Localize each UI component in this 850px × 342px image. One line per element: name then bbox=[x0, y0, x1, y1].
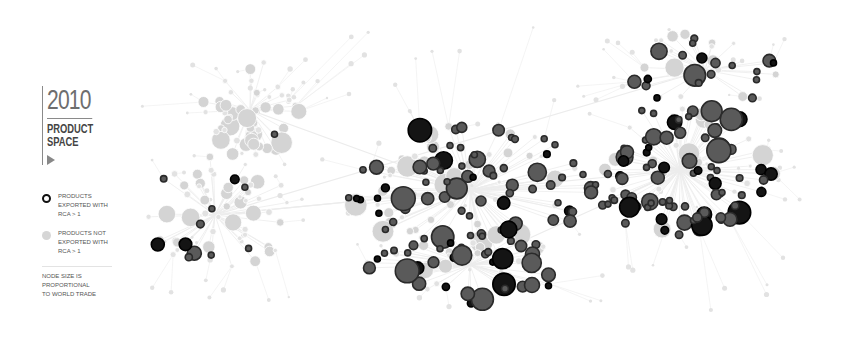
product-node-exported[interactable] bbox=[457, 122, 467, 132]
product-node-not-exported[interactable] bbox=[782, 37, 786, 41]
product-node-not-exported[interactable] bbox=[362, 52, 367, 57]
product-node-not-exported[interactable] bbox=[798, 197, 802, 201]
product-node-not-exported[interactable] bbox=[210, 228, 216, 234]
product-node-exported[interactable] bbox=[564, 215, 576, 227]
product-node-not-exported[interactable] bbox=[630, 268, 635, 273]
product-node-not-exported[interactable] bbox=[767, 139, 770, 142]
product-node-not-exported[interactable] bbox=[220, 99, 232, 111]
product-node-not-exported[interactable] bbox=[276, 219, 284, 227]
product-node-exported[interactable] bbox=[470, 174, 476, 180]
product-node-exported[interactable] bbox=[707, 71, 715, 79]
product-node-exported[interactable] bbox=[760, 176, 768, 184]
product-node-not-exported[interactable] bbox=[376, 141, 381, 146]
product-node-not-exported[interactable] bbox=[301, 218, 305, 222]
product-node-not-exported[interactable] bbox=[186, 112, 189, 115]
product-node-exported[interactable] bbox=[346, 195, 352, 201]
product-node-exported[interactable] bbox=[423, 179, 429, 185]
product-node-not-exported[interactable] bbox=[202, 210, 209, 217]
product-node-not-exported[interactable] bbox=[764, 292, 769, 297]
product-node-exported[interactable] bbox=[542, 268, 556, 282]
product-node-exported[interactable] bbox=[622, 220, 629, 227]
product-node-exported[interactable] bbox=[231, 175, 240, 184]
product-node-not-exported[interactable] bbox=[260, 102, 271, 113]
product-node-exported[interactable] bbox=[693, 213, 702, 222]
product-node-not-exported[interactable] bbox=[234, 137, 241, 144]
product-node-not-exported[interactable] bbox=[388, 173, 393, 178]
product-node-not-exported[interactable] bbox=[356, 243, 359, 246]
product-node-exported[interactable] bbox=[555, 200, 561, 206]
product-node-exported[interactable] bbox=[382, 184, 390, 192]
product-node-exported[interactable] bbox=[541, 136, 547, 142]
product-node-not-exported[interactable] bbox=[468, 268, 471, 271]
product-node-exported[interactable] bbox=[408, 119, 431, 142]
product-node-not-exported[interactable] bbox=[678, 94, 684, 100]
product-node-not-exported[interactable] bbox=[170, 252, 176, 258]
product-node-exported[interactable] bbox=[390, 219, 397, 226]
product-node-not-exported[interactable] bbox=[779, 149, 783, 153]
product-node-not-exported[interactable] bbox=[279, 93, 284, 98]
product-node-not-exported[interactable] bbox=[191, 236, 194, 239]
product-node-not-exported[interactable] bbox=[206, 153, 214, 161]
product-node-not-exported[interactable] bbox=[158, 205, 176, 223]
product-node-exported[interactable] bbox=[682, 154, 697, 169]
product-node-not-exported[interactable] bbox=[439, 259, 453, 273]
product-node-not-exported[interactable] bbox=[287, 66, 292, 71]
product-node-exported[interactable] bbox=[651, 43, 667, 59]
product-node-exported[interactable] bbox=[405, 250, 411, 256]
product-node-not-exported[interactable] bbox=[673, 142, 679, 148]
product-node-not-exported[interactable] bbox=[208, 167, 214, 173]
product-node-not-exported[interactable] bbox=[652, 264, 655, 267]
product-node-exported[interactable] bbox=[682, 203, 689, 210]
product-node-exported[interactable] bbox=[656, 214, 667, 225]
product-node-exported[interactable] bbox=[493, 249, 513, 269]
product-node-not-exported[interactable] bbox=[223, 78, 228, 83]
product-node-exported[interactable] bbox=[547, 181, 555, 189]
product-node-exported[interactable] bbox=[546, 283, 552, 289]
product-node-exported[interactable] bbox=[676, 117, 682, 123]
product-node-not-exported[interactable] bbox=[204, 278, 208, 282]
product-node-exported[interactable] bbox=[437, 246, 443, 252]
product-node-not-exported[interactable] bbox=[223, 182, 233, 192]
product-node-exported[interactable] bbox=[528, 163, 546, 181]
product-node-exported[interactable] bbox=[714, 168, 720, 174]
product-node-exported[interactable] bbox=[697, 53, 707, 63]
product-node-not-exported[interactable] bbox=[626, 264, 631, 269]
product-node-not-exported[interactable] bbox=[207, 296, 211, 300]
product-node-not-exported[interactable] bbox=[278, 193, 283, 198]
product-node-not-exported[interactable] bbox=[766, 283, 769, 286]
product-node-not-exported[interactable] bbox=[249, 78, 254, 83]
product-node-exported[interactable] bbox=[702, 134, 709, 141]
product-node-not-exported[interactable] bbox=[696, 206, 699, 209]
product-node-not-exported[interactable] bbox=[434, 281, 440, 287]
product-node-exported[interactable] bbox=[639, 108, 645, 114]
product-node-not-exported[interactable] bbox=[578, 233, 581, 236]
product-node-not-exported[interactable] bbox=[772, 43, 775, 46]
product-node-exported[interactable] bbox=[605, 201, 611, 207]
product-node-not-exported[interactable] bbox=[605, 39, 610, 44]
product-node-exported[interactable] bbox=[711, 58, 720, 67]
product-node-exported[interactable] bbox=[529, 185, 536, 192]
product-node-not-exported[interactable] bbox=[248, 138, 260, 150]
product-node-not-exported[interactable] bbox=[190, 63, 195, 68]
product-node-exported[interactable] bbox=[580, 172, 586, 178]
product-node-exported[interactable] bbox=[719, 190, 725, 196]
product-node-exported[interactable] bbox=[498, 197, 510, 209]
product-node-exported[interactable] bbox=[375, 195, 381, 201]
product-node-exported[interactable] bbox=[458, 145, 464, 151]
product-node-exported[interactable] bbox=[739, 192, 746, 199]
product-node-not-exported[interactable] bbox=[213, 128, 219, 134]
product-node-exported[interactable] bbox=[427, 157, 440, 170]
product-node-not-exported[interactable] bbox=[732, 189, 736, 193]
product-node-exported[interactable] bbox=[461, 287, 474, 300]
product-node-exported[interactable] bbox=[604, 171, 611, 178]
product-node-not-exported[interactable] bbox=[256, 196, 261, 201]
product-node-not-exported[interactable] bbox=[226, 148, 239, 161]
product-node-not-exported[interactable] bbox=[151, 159, 154, 162]
product-node-not-exported[interactable] bbox=[146, 214, 151, 219]
product-node-not-exported[interactable] bbox=[486, 152, 492, 158]
product-node-not-exported[interactable] bbox=[474, 250, 481, 257]
product-node-not-exported[interactable] bbox=[291, 103, 307, 119]
product-node-not-exported[interactable] bbox=[732, 41, 736, 45]
product-node-not-exported[interactable] bbox=[150, 286, 154, 290]
product-node-not-exported[interactable] bbox=[205, 188, 210, 193]
